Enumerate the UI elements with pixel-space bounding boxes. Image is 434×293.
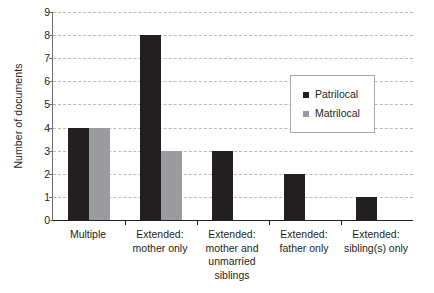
y-axis-tick-label: 4 [33, 122, 50, 133]
bar-group [125, 12, 197, 220]
y-axis-tick-label: 2 [33, 169, 50, 180]
black-square-marker-icon [303, 92, 309, 98]
legend-entry-patrilocal: Patrilocal [303, 85, 374, 104]
bar-patrilocal [356, 197, 377, 220]
bar-patrilocal [140, 35, 161, 220]
y-axis-tick-label: 7 [33, 53, 50, 64]
y-axis-tick-labels: 9876543210 [33, 12, 50, 220]
bar-matrilocal [89, 128, 110, 220]
x-axis-tick-labels: MultipleExtended:mother onlyExtended:mot… [52, 228, 412, 290]
y-axis-title: Number of documents [3, 0, 33, 232]
x-axis-tick-label: Multiple [52, 228, 124, 290]
legend-entry-matrilocal: Matrilocal [303, 104, 374, 123]
y-axis-tick-label: 6 [33, 76, 50, 87]
x-axis-tick-label: Extended:mother only [124, 228, 196, 290]
gray-square-marker-icon [303, 111, 309, 117]
bar-group [197, 12, 269, 220]
y-axis-tick-label: 3 [33, 145, 50, 156]
legend-label: Matrilocal [315, 108, 360, 119]
y-axis-tick-label: 8 [33, 30, 50, 41]
bar-chart: Number of documents 9876543210 MultipleE… [0, 0, 434, 293]
bar-patrilocal [68, 128, 89, 220]
bar-matrilocal [161, 151, 182, 220]
y-axis-tick [49, 220, 53, 221]
x-axis-tick [197, 220, 198, 225]
y-axis-tick-label: 5 [33, 99, 50, 110]
bar-patrilocal [284, 174, 305, 220]
bar-patrilocal [212, 151, 233, 220]
bar-group [53, 12, 125, 220]
legend: Patrilocal Matrilocal [290, 75, 375, 133]
x-axis-tick [341, 220, 342, 225]
y-axis-tick-label: 9 [33, 7, 50, 18]
x-axis-tick-label: Extended:mother andunmarriedsiblings [196, 228, 268, 290]
legend-label: Patrilocal [315, 89, 358, 100]
x-axis-tick [125, 220, 126, 225]
x-axis-tick [269, 220, 270, 225]
y-axis-title-text: Number of documents [12, 63, 24, 168]
x-axis-tick-label: Extended:father only [268, 228, 340, 290]
y-axis-tick-label: 0 [33, 215, 50, 226]
x-axis-tick-label: Extended:sibling(s) only [340, 228, 412, 290]
y-axis-tick-label: 1 [33, 192, 50, 203]
